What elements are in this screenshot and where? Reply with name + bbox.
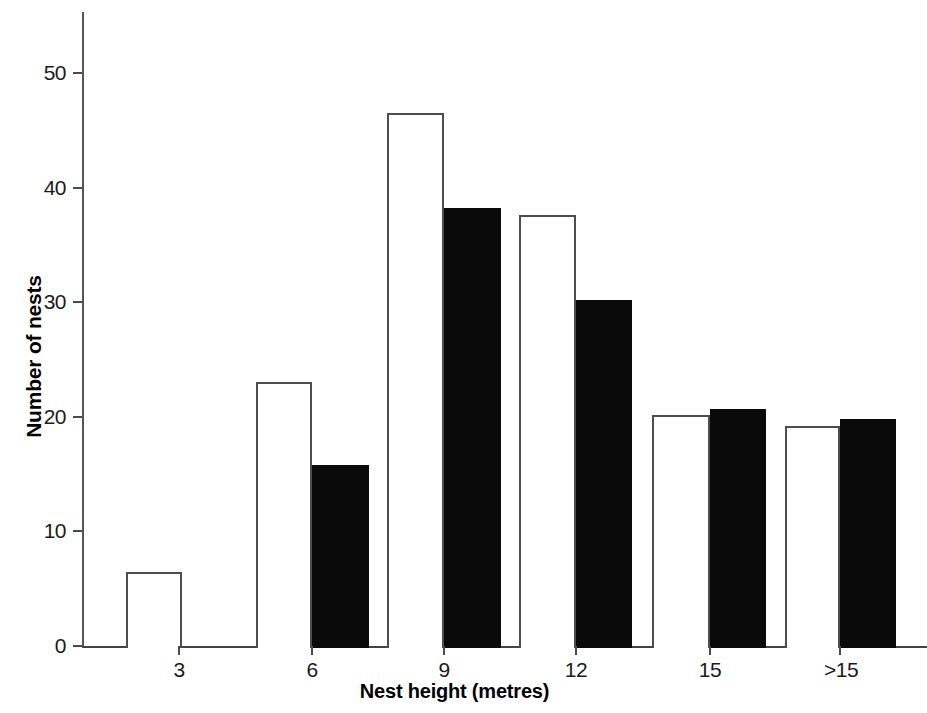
x-tick-label-6: 6 — [306, 658, 317, 682]
y-tick-label-30: 30 — [18, 290, 66, 314]
y-tick-mark-20 — [73, 416, 82, 418]
x-axis-title: Nest height (metres) — [82, 680, 927, 703]
x-tick-mark-gt15 — [839, 646, 841, 655]
bar-black-9 — [444, 208, 501, 648]
x-tick-mark-12 — [575, 646, 577, 655]
bar-black-6 — [312, 465, 369, 648]
x-tick-label-15: 15 — [699, 658, 721, 682]
y-tick-mark-50 — [73, 72, 82, 74]
y-tick-label-10: 10 — [18, 519, 66, 543]
y-tick-label-0: 0 — [18, 634, 66, 658]
y-tick-mark-10 — [73, 530, 82, 532]
y-axis-line — [82, 12, 84, 648]
x-tick-label-3: 3 — [173, 658, 184, 682]
y-tick-mark-40 — [73, 187, 82, 189]
bar-black-12 — [576, 300, 632, 648]
x-tick-label-9: 9 — [438, 658, 449, 682]
bar-white-3 — [126, 572, 182, 648]
bar-white-12 — [519, 215, 576, 648]
bar-white-6 — [256, 382, 312, 648]
y-tick-label-50: 50 — [18, 61, 66, 85]
bar-black-gt15 — [840, 419, 896, 648]
bar-white-9 — [387, 113, 444, 648]
bar-white-15 — [652, 415, 710, 648]
x-tick-mark-6 — [311, 646, 313, 655]
y-tick-label-20: 20 — [18, 405, 66, 429]
bar-white-gt15 — [785, 426, 840, 648]
bar-black-15 — [710, 409, 766, 648]
x-tick-label-gt15: >15 — [824, 658, 858, 682]
x-tick-label-12: 12 — [565, 658, 587, 682]
x-tick-mark-9 — [443, 646, 445, 655]
y-tick-label-40: 40 — [18, 176, 66, 200]
x-tick-mark-15 — [709, 646, 711, 655]
bar-chart: Number of nests 0 10 20 30 40 50 3 6 9 1… — [0, 0, 927, 713]
y-tick-mark-30 — [73, 301, 82, 303]
y-tick-mark-0 — [73, 645, 82, 647]
x-tick-mark-3 — [178, 646, 180, 655]
y-axis-title: Number of nests — [36, 0, 76, 713]
